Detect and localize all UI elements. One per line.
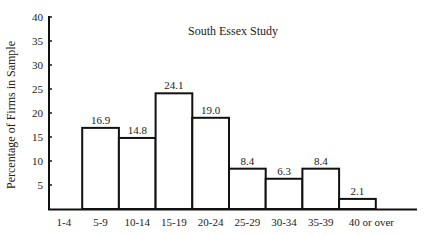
- bar-value-label: 8.4: [314, 155, 328, 167]
- y-tick-label: 30: [32, 59, 44, 71]
- bar-20-24: [192, 118, 229, 209]
- x-tick-label: 5-9: [93, 216, 108, 228]
- x-tick-label: 35-39: [308, 216, 334, 228]
- x-tick-label: 20-24: [198, 216, 224, 228]
- y-tick-label: 15: [32, 131, 44, 143]
- bar-25-29: [229, 169, 266, 209]
- bar-5-9: [82, 128, 119, 209]
- bar-15-19: [156, 93, 193, 209]
- bar-value-label: 8.4: [240, 155, 254, 167]
- bar-30-34: [266, 179, 303, 209]
- x-tick-label: 25-29: [235, 216, 261, 228]
- y-tick-label: 35: [32, 35, 44, 47]
- chart-title: South Essex Study: [188, 24, 278, 38]
- y-tick-label: 25: [32, 83, 44, 95]
- x-axis-labels: 1-45-910-1415-1920-2425-2930-3435-3940 o…: [57, 216, 395, 228]
- histogram-chart: South Essex Study Percentage of Firms in…: [0, 0, 433, 235]
- x-tick-label: 30-34: [271, 216, 297, 228]
- x-tick-label: 15-19: [161, 216, 187, 228]
- bar-40-or-over: [339, 199, 376, 209]
- bar-10-14: [119, 138, 156, 209]
- x-tick-label: 1-4: [57, 216, 72, 228]
- y-tick-label: 40: [32, 11, 44, 23]
- y-tick-label: 5: [38, 179, 44, 191]
- bar-value-label: 14.8: [128, 124, 148, 136]
- bar-value-label: 16.9: [91, 114, 111, 126]
- x-tick-label: 40 or over: [349, 216, 395, 228]
- y-tick-label: 10: [32, 155, 44, 167]
- bar-value-label: 2.1: [351, 185, 365, 197]
- y-axis-label: Percentage of Firms in Sample: [4, 41, 18, 189]
- y-tick-label: 20: [32, 107, 44, 119]
- bars: 16.914.824.119.08.46.38.42.1: [82, 79, 376, 209]
- bar-35-39: [302, 169, 339, 209]
- x-tick-label: 10-14: [124, 216, 150, 228]
- bar-value-label: 19.0: [201, 104, 221, 116]
- bar-value-label: 6.3: [277, 165, 291, 177]
- bar-value-label: 24.1: [164, 79, 183, 91]
